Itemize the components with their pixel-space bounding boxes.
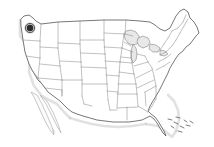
us-map-widget: United States Outline Map Contiguous Uni… xyxy=(0,0,214,147)
marker-dot xyxy=(27,25,33,31)
map-marker-washington[interactable] xyxy=(24,22,35,33)
us-map-svg xyxy=(0,0,214,147)
florida-keys xyxy=(168,117,193,132)
